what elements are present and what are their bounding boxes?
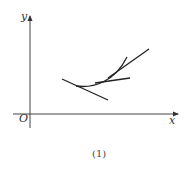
- y-axis-label: y: [21, 10, 27, 23]
- origin-label: O: [19, 112, 28, 125]
- secant-line-right: [108, 49, 149, 78]
- figure-caption: (1): [92, 148, 106, 159]
- tangent-line-middle: [95, 78, 130, 83]
- x-axis-label: x: [169, 114, 175, 127]
